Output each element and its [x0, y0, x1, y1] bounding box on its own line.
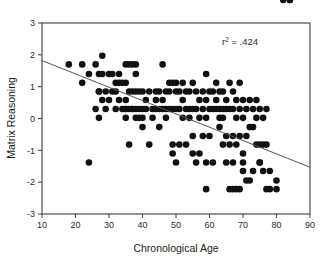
- r-squared-annotation: r2 = .424: [222, 36, 258, 48]
- data-point: [213, 97, 220, 104]
- data-point: [220, 141, 227, 148]
- data-point: [102, 106, 109, 113]
- data-point: [122, 80, 129, 87]
- data-point: [122, 97, 129, 104]
- data-point: [253, 97, 260, 104]
- x-tick-label: 10: [37, 220, 47, 230]
- data-point: [79, 80, 86, 87]
- data-point: [246, 177, 253, 184]
- data-point: [193, 159, 200, 166]
- data-point: [156, 88, 163, 95]
- data-point: [287, 0, 294, 3]
- data-point: [153, 97, 160, 104]
- data-point: [267, 186, 274, 193]
- x-tick-label: 80: [271, 220, 281, 230]
- data-point: [233, 141, 240, 148]
- data-point: [106, 97, 113, 104]
- data-point: [183, 141, 190, 148]
- data-point: [210, 88, 217, 95]
- data-point: [203, 97, 210, 104]
- x-axis-ticks: [42, 214, 310, 218]
- data-point: [173, 80, 180, 87]
- data-point: [133, 71, 140, 78]
- data-point: [256, 106, 263, 113]
- x-tick-label: 40: [137, 220, 147, 230]
- data-point: [169, 150, 176, 157]
- data-point: [203, 71, 210, 78]
- x-tick-label: 50: [171, 220, 181, 230]
- data-point: [213, 80, 220, 87]
- data-point: [146, 141, 153, 148]
- data-point: [220, 115, 227, 122]
- data-point: [196, 150, 203, 157]
- data-point: [92, 106, 99, 113]
- regression-line: [42, 61, 310, 168]
- y-tick-label: 0: [30, 114, 35, 124]
- data-point: [193, 88, 200, 95]
- data-point: [273, 186, 280, 193]
- data-point: [263, 106, 270, 113]
- r-squared-value: = .424: [229, 36, 258, 47]
- data-point: [159, 61, 166, 68]
- data-point: [169, 141, 176, 148]
- x-tick-label: 70: [238, 220, 248, 230]
- data-point: [256, 159, 263, 166]
- data-point: [189, 80, 196, 87]
- data-point: [206, 133, 213, 140]
- data-point: [200, 106, 207, 113]
- data-point: [240, 150, 247, 157]
- data-point: [189, 150, 196, 157]
- data-point: [109, 71, 116, 78]
- data-point: [156, 124, 163, 131]
- data-point: [179, 80, 186, 87]
- data-point: [240, 159, 247, 166]
- y-axis-tick-labels: -3-2-10123: [27, 18, 35, 219]
- data-point: [273, 177, 280, 184]
- data-point: [96, 115, 103, 122]
- data-point: [250, 106, 257, 113]
- data-point: [196, 115, 203, 122]
- plot-area-border: [42, 23, 310, 214]
- x-tick-label: 20: [70, 220, 80, 230]
- data-point: [220, 88, 227, 95]
- data-point: [203, 159, 210, 166]
- data-point: [122, 115, 129, 122]
- data-point: [230, 106, 237, 113]
- data-point: [176, 106, 183, 113]
- chart-canvas: -3-2-10123 102030405060708090 Matrix Rea…: [0, 0, 325, 262]
- data-point: [86, 71, 93, 78]
- data-point: [250, 168, 257, 175]
- data-point: [236, 106, 243, 113]
- y-tick-label: -1: [27, 146, 35, 156]
- x-tick-label: 30: [104, 220, 114, 230]
- data-point: [230, 88, 237, 95]
- data-point: [176, 141, 183, 148]
- x-tick-label: 90: [305, 220, 315, 230]
- y-axis-title: Matrix Reasoning: [5, 77, 17, 159]
- data-point: [179, 97, 186, 104]
- data-point: [216, 124, 223, 131]
- x-axis-title: Chronological Age: [133, 242, 218, 254]
- scatter-plot-figure: -3-2-10123 102030405060708090 Matrix Rea…: [0, 0, 325, 262]
- data-point: [176, 88, 183, 95]
- data-point: [236, 186, 243, 193]
- data-point: [66, 61, 73, 68]
- data-point: [163, 115, 170, 122]
- data-point: [126, 141, 133, 148]
- data-point: [146, 88, 153, 95]
- y-tick-label: 1: [30, 82, 35, 92]
- data-point: [166, 88, 173, 95]
- data-point: [99, 97, 106, 104]
- y-tick-label: -3: [27, 209, 35, 219]
- x-axis-tick-labels: 102030405060708090: [37, 220, 315, 230]
- data-point: [196, 97, 203, 104]
- data-point: [116, 71, 123, 78]
- data-point: [253, 115, 260, 122]
- data-point: [263, 141, 270, 148]
- data-point: [92, 61, 99, 68]
- data-point: [280, 0, 287, 3]
- data-point: [99, 52, 106, 59]
- y-tick-label: 2: [30, 50, 35, 60]
- data-point: [133, 61, 140, 68]
- data-point: [240, 115, 247, 122]
